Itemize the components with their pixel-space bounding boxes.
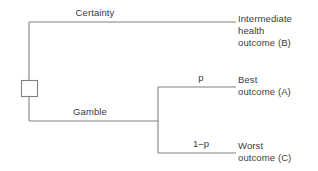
outcome-a-line-2: outcome (A) <box>238 86 291 98</box>
outcome-a-line-1: Best <box>238 74 291 86</box>
outcome-b-line-2: health <box>238 25 292 37</box>
outcome-b-line-1: Intermediate <box>238 13 292 25</box>
outcome-b-line-3: outcome (B) <box>238 37 292 49</box>
decision-node-square <box>22 81 38 97</box>
probability-p-label: p <box>180 72 222 84</box>
outcome-a-label: Best outcome (A) <box>238 74 291 98</box>
probability-one-minus-p-label: 1–p <box>178 138 224 150</box>
outcome-b-label: Intermediate health outcome (B) <box>238 13 292 49</box>
outcome-c-label: Worst outcome (C) <box>238 140 291 164</box>
outcome-c-line-1: Worst <box>238 140 291 152</box>
decision-tree-diagram: Certainty Gamble p 1–p Intermediate heal… <box>0 0 318 171</box>
certainty-branch-label: Certainty <box>64 7 126 19</box>
outcome-c-line-2: outcome (C) <box>238 152 291 164</box>
gamble-branch-label: Gamble <box>62 106 118 118</box>
